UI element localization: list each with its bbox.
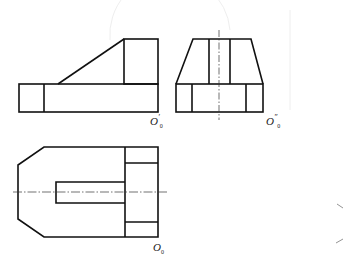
front-slope-edge xyxy=(58,39,124,84)
front-view xyxy=(19,39,158,112)
front-upper-block xyxy=(124,39,158,84)
top-slot xyxy=(56,182,125,203)
label-side-origin: O″0 xyxy=(266,114,280,129)
edge-marks xyxy=(336,204,343,243)
label-top-origin: O0 xyxy=(153,242,164,255)
side-base-outline xyxy=(176,84,263,112)
label-front-origin: O′0 xyxy=(150,114,163,129)
side-trapezoid xyxy=(176,39,263,84)
three-view-drawing xyxy=(0,0,346,268)
side-view xyxy=(176,39,263,112)
front-base-outline xyxy=(19,84,158,112)
